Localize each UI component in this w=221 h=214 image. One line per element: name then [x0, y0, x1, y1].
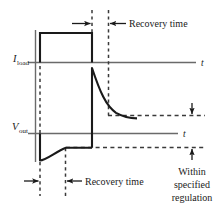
i-load-waveform: [40, 33, 92, 63]
t-axis-top-label: t: [201, 58, 204, 68]
axes-group: [28, 30, 196, 162]
v-out-waveform: [40, 68, 137, 161]
v-out-label: Vout: [12, 121, 28, 135]
i-load-label: Iload: [12, 53, 30, 67]
within-regulation-line1: Within: [178, 166, 205, 177]
v-out-overshoot-path: [92, 68, 137, 148]
i-load-subscript: load: [17, 59, 30, 67]
i-load-pulse-path: [40, 33, 92, 63]
t-axis-bottom-label: t: [183, 129, 186, 139]
dashed-verticals-group: [40, 10, 109, 196]
waveform-figure: Iload Vout t t Recovery time Recovery ti…: [0, 0, 221, 214]
recovery-time-bottom-label: Recovery time: [85, 176, 144, 187]
recovery-time-top-label: Recovery time: [129, 18, 188, 29]
within-regulation-line2: specified: [174, 179, 210, 190]
v-out-subscript: out: [19, 127, 28, 135]
within-regulation-line3: regulation: [172, 192, 213, 203]
waveform-svg: Iload Vout t t Recovery time Recovery ti…: [0, 0, 221, 214]
